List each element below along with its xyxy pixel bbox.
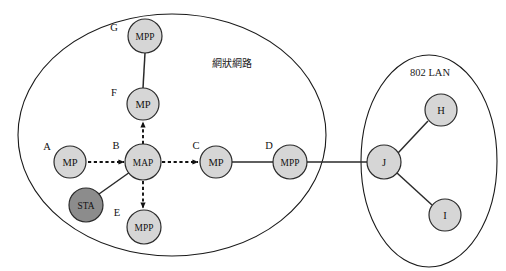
node-D[interactable]: MPPD xyxy=(265,140,307,180)
node-label-I: I xyxy=(443,210,447,221)
node-F[interactable]: MPF xyxy=(111,87,159,121)
node-label-STA: STA xyxy=(78,201,95,211)
node-tag-E: E xyxy=(114,207,120,218)
node-label-A: MP xyxy=(62,157,77,168)
region-label-lan-802: 802 LAN xyxy=(410,67,450,78)
region-outlines xyxy=(18,14,497,267)
node-E[interactable]: MPPE xyxy=(114,207,161,245)
node-A[interactable]: MPA xyxy=(43,141,86,179)
node-label-G: MPP xyxy=(136,32,155,42)
solid-links xyxy=(99,53,432,205)
node-J[interactable]: J xyxy=(367,145,401,179)
node-label-C: MP xyxy=(208,157,223,168)
link-J-I xyxy=(397,173,432,205)
node-H[interactable]: H xyxy=(425,94,457,126)
node-tag-B: B xyxy=(112,140,119,151)
node-tag-A: A xyxy=(43,141,51,152)
region-labels: 網狀網路802 LAN xyxy=(212,57,450,78)
node-tag-F: F xyxy=(111,87,117,98)
node-tag-D: D xyxy=(265,140,273,151)
node-G[interactable]: MPPG xyxy=(110,19,162,53)
network-nodes: MPPGMPFMPAMAPBSTAMPPEMPCMPPDJHI xyxy=(43,19,461,244)
node-label-D: MPP xyxy=(281,158,300,168)
node-label-E: MPP xyxy=(135,223,154,233)
link-G-F xyxy=(143,53,145,88)
region-outline-mesh-network xyxy=(18,14,326,256)
node-label-J: J xyxy=(382,157,386,168)
node-B[interactable]: MAPB xyxy=(112,140,161,181)
node-I[interactable]: I xyxy=(429,199,461,231)
region-label-mesh-network: 網狀網路 xyxy=(212,57,252,69)
network-diagram-canvas: MPPGMPFMPAMAPBSTAMPPEMPCMPPDJHI 網狀網路802 … xyxy=(0,0,506,271)
node-tag-G: G xyxy=(110,22,118,33)
node-label-B: MAP xyxy=(133,158,153,168)
node-C[interactable]: MPC xyxy=(192,140,232,179)
node-label-H: H xyxy=(437,105,445,116)
node-label-F: MP xyxy=(135,99,150,110)
link-J-H xyxy=(398,121,428,153)
network-diagram: MPPGMPFMPAMAPBSTAMPPEMPCMPPDJHI 網狀網路802 … xyxy=(0,0,506,271)
node-tag-C: C xyxy=(192,140,199,151)
node-STA[interactable]: STA xyxy=(69,188,103,222)
link-STA-B xyxy=(99,172,130,194)
